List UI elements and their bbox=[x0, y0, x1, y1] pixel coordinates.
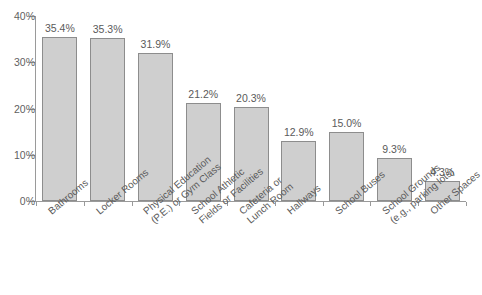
x-tick-mark bbox=[370, 202, 371, 206]
bar-value-label: 31.9% bbox=[125, 39, 185, 50]
y-axis-line bbox=[35, 16, 36, 202]
y-tick-label-wrap: 0% bbox=[0, 196, 35, 197]
bar bbox=[90, 38, 125, 201]
x-tick-mark bbox=[132, 202, 133, 206]
y-tick-label-wrap: 40% bbox=[0, 11, 35, 12]
y-tick-label: 40% bbox=[7, 11, 35, 21]
y-tick-label: 0% bbox=[7, 196, 35, 206]
y-tick-label-wrap: 10% bbox=[0, 150, 35, 151]
bar-value-label: 9.3% bbox=[364, 144, 424, 155]
bar-value-label: 20.3% bbox=[221, 93, 281, 104]
bar-value-label: 35.3% bbox=[78, 24, 138, 35]
x-tick-mark bbox=[323, 202, 324, 206]
y-tick-label: 10% bbox=[7, 150, 35, 160]
y-tick-label-wrap: 30% bbox=[0, 57, 35, 58]
y-tick-label: 30% bbox=[7, 57, 35, 67]
bar bbox=[42, 37, 77, 201]
bar-value-label: 12.9% bbox=[269, 127, 329, 138]
y-tick-label-wrap: 20% bbox=[0, 104, 35, 105]
x-tick-mark bbox=[36, 202, 37, 206]
x-tick-mark bbox=[84, 202, 85, 206]
y-tick-label: 20% bbox=[7, 104, 35, 114]
bar-value-label: 15.0% bbox=[317, 118, 377, 129]
x-tick-mark bbox=[466, 202, 467, 206]
